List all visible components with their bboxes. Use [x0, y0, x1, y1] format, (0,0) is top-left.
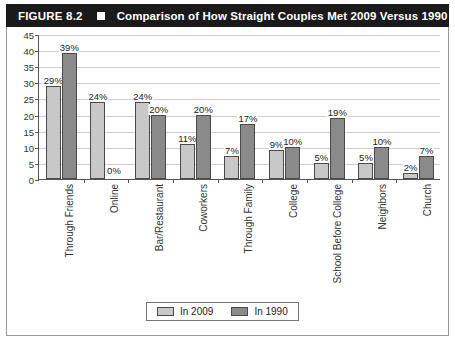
bar-group: 5%10%: [352, 35, 397, 179]
x-axis-category-label: Through Family: [243, 184, 254, 253]
bar-group: 7%17%: [218, 35, 263, 179]
y-axis-tick: [35, 180, 39, 181]
bar-group-bars: 9%10%: [262, 35, 307, 179]
legend-label: In 2009: [180, 306, 213, 317]
bar-value-label: 19%: [327, 107, 348, 118]
bar-value-label: 0%: [106, 165, 122, 176]
x-axis-category-label: Through Friends: [64, 184, 75, 257]
bar-value-label: 20%: [193, 104, 214, 115]
x-axis-tick: [352, 179, 353, 183]
bar-value-label: 20%: [148, 104, 169, 115]
bar-value-label: 24%: [87, 91, 108, 102]
y-axis-tick-label: 0: [29, 175, 34, 186]
bar-group-bars: 24%20%: [128, 35, 173, 179]
bar[interactable]: 24%: [90, 102, 105, 179]
bar-group: 9%10%: [262, 35, 307, 179]
bar[interactable]: 19%: [330, 118, 345, 179]
y-axis-tick-label: 45: [23, 30, 34, 41]
x-axis-tick: [396, 179, 397, 183]
bar-value-label: 11%: [177, 133, 197, 144]
bar[interactable]: 39%: [62, 53, 77, 179]
y-axis-tick-label: 10: [23, 142, 34, 153]
legend-item[interactable]: In 2009: [157, 306, 213, 317]
x-axis-tick: [84, 179, 85, 183]
bar-group-bars: 29%39%: [39, 35, 84, 179]
x-axis-category-label: School Before College: [332, 184, 343, 284]
chart-plot-area: 05101520253035404529%39%24%0%24%20%11%20…: [38, 35, 440, 180]
x-axis-tick: [307, 179, 308, 183]
bar-group-bars: 2%7%: [396, 35, 441, 179]
x-axis-category-label: College: [288, 184, 299, 218]
bar[interactable]: 10%: [285, 147, 300, 179]
x-axis-tick: [173, 179, 174, 183]
bar[interactable]: 20%: [196, 115, 211, 179]
legend-label: In 1990: [254, 306, 287, 317]
y-axis-tick-label: 15: [23, 126, 34, 137]
bar-group: 11%20%: [173, 35, 218, 179]
chart-plot-wrapper: 05101520253035404529%39%24%0%24%20%11%20…: [0, 0, 455, 343]
chart-legend: In 2009In 1990: [146, 302, 299, 321]
y-axis-tick-label: 40: [23, 46, 34, 57]
x-axis-tick: [262, 179, 263, 183]
x-axis-category-label: Online: [109, 184, 120, 213]
bar-value-label: 17%: [237, 113, 258, 124]
bar-value-label: 2%: [403, 162, 419, 173]
bar-group-bars: 24%0%: [84, 35, 129, 179]
bar[interactable]: 17%: [240, 124, 255, 179]
figure-container: FIGURE 8.2 Comparison of How Straight Co…: [0, 0, 455, 343]
bar-value-label: 24%: [132, 91, 153, 102]
bar-value-label: 7%: [419, 145, 435, 156]
y-axis-tick-label: 30: [23, 78, 34, 89]
bar[interactable]: 11%: [180, 144, 195, 179]
bar-group-bars: 7%17%: [218, 35, 263, 179]
bar-group: 2%7%: [396, 35, 441, 179]
bar-value-label: 10%: [371, 136, 392, 147]
bar[interactable]: 5%: [314, 163, 329, 179]
x-axis-tick: [128, 179, 129, 183]
bar[interactable]: 9%: [269, 150, 284, 179]
bar[interactable]: 10%: [374, 147, 389, 179]
bar-group: 29%39%: [39, 35, 84, 179]
y-axis-tick-label: 25: [23, 94, 34, 105]
bar[interactable]: 7%: [224, 156, 239, 179]
x-axis-category-label: Coworkers: [198, 184, 209, 232]
x-axis-category-label: Neighbors: [377, 184, 388, 230]
bar-group: 24%0%: [84, 35, 129, 179]
y-axis-tick-label: 35: [23, 62, 34, 73]
bar-group-bars: 11%20%: [173, 35, 218, 179]
bar-group-bars: 5%19%: [307, 35, 352, 179]
bar-group: 24%20%: [128, 35, 173, 179]
bar-group-bars: 5%10%: [352, 35, 397, 179]
bar-value-label: 39%: [59, 42, 80, 53]
bar-value-label: 7%: [224, 145, 240, 156]
legend-swatch: [157, 307, 174, 316]
x-axis-category-label: Bar/Restaurant: [154, 184, 165, 251]
bar-value-label: 5%: [358, 152, 374, 163]
legend-item[interactable]: In 1990: [231, 306, 287, 317]
x-axis-category-label: Church: [422, 184, 433, 216]
y-axis-tick-label: 20: [23, 110, 34, 121]
bar[interactable]: 2%: [403, 173, 418, 179]
bar-group: 5%19%: [307, 35, 352, 179]
legend-swatch: [231, 307, 248, 316]
bar-value-label: 5%: [313, 152, 329, 163]
bar[interactable]: 5%: [358, 163, 373, 179]
x-axis-tick: [218, 179, 219, 183]
bar[interactable]: 7%: [419, 156, 434, 179]
bar-value-label: 10%: [282, 136, 303, 147]
bar[interactable]: 29%: [46, 86, 61, 179]
y-axis-tick-label: 5: [29, 158, 34, 169]
bar[interactable]: 20%: [151, 115, 166, 179]
bar-value-label: 29%: [43, 75, 64, 86]
